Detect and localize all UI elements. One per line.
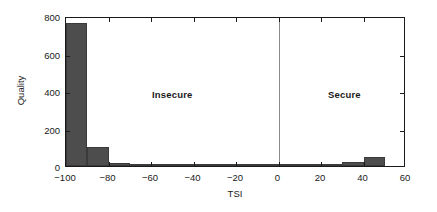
bar	[215, 164, 236, 166]
x-tick-label: −100	[54, 172, 75, 183]
bar	[279, 164, 300, 166]
x-tick-label: −20	[227, 172, 243, 183]
y-tick-label: 200	[44, 124, 60, 135]
y-tick-label: 0	[55, 162, 60, 173]
bar	[236, 164, 257, 166]
x-tick-label: −80	[99, 172, 115, 183]
bar	[87, 147, 108, 166]
x-tick-top	[194, 162, 195, 166]
x-tick-label: 0	[275, 172, 280, 183]
bar	[257, 164, 278, 166]
x-tick	[109, 18, 110, 22]
histogram-figure: Quality TSI InsecureSecure −100−80−60−40…	[0, 0, 437, 212]
bar	[109, 163, 130, 166]
bar	[172, 164, 193, 166]
bar	[300, 164, 321, 166]
annotation-insecure: Insecure	[152, 89, 193, 100]
bar	[151, 164, 172, 166]
x-tick-label: 40	[357, 172, 368, 183]
bar	[130, 164, 151, 166]
x-axis-title: TSI	[228, 188, 243, 199]
x-tick-top	[151, 162, 152, 166]
x-tick	[194, 18, 195, 22]
x-tick-label: −60	[142, 172, 158, 183]
x-tick-label: 60	[400, 172, 411, 183]
y-axis-title: Quality	[15, 71, 26, 111]
y-tick-right	[400, 56, 404, 57]
y-tick-label: 600	[44, 49, 60, 60]
reference-line-security-threshold	[279, 18, 280, 166]
y-tick	[66, 131, 70, 132]
y-tick-right	[400, 131, 404, 132]
x-tick	[151, 18, 152, 22]
bar	[321, 164, 342, 166]
x-tick	[364, 18, 365, 22]
x-tick-label: −40	[184, 172, 200, 183]
x-tick	[321, 18, 322, 22]
y-tick	[66, 93, 70, 94]
x-tick-top	[109, 162, 110, 166]
plot-area: InsecureSecure	[65, 17, 405, 167]
y-tick-label: 800	[44, 12, 60, 23]
x-tick-top	[279, 162, 280, 166]
y-tick	[66, 56, 70, 57]
x-tick	[279, 18, 280, 22]
bar	[66, 23, 87, 166]
x-tick-top	[236, 162, 237, 166]
x-tick-top	[364, 162, 365, 166]
x-tick	[236, 18, 237, 22]
y-tick-label: 400	[44, 87, 60, 98]
y-tick-right	[400, 93, 404, 94]
annotation-secure: Secure	[328, 89, 361, 100]
x-tick-top	[321, 162, 322, 166]
bar	[364, 157, 385, 166]
bar	[194, 164, 215, 166]
x-tick-label: 20	[315, 172, 326, 183]
bar	[342, 162, 363, 166]
